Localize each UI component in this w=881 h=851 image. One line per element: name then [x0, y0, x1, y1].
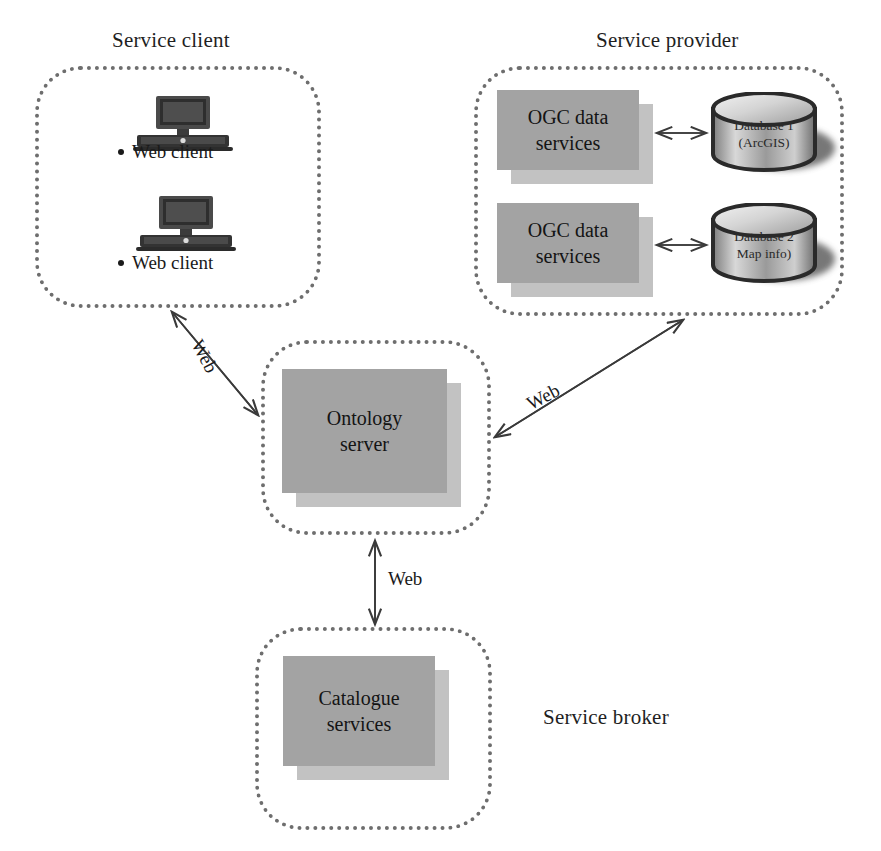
stack-front-layer: Ontology server [282, 369, 447, 493]
ontology-server-line1: Ontology [327, 405, 403, 431]
edge-label-ontology-provider: Web [523, 379, 564, 414]
service-provider-caption: Service provider [596, 28, 739, 53]
ogc-data-services-box-1: OGC data services [497, 90, 639, 170]
database-cylinder-2: Database 2 Map info) [709, 203, 859, 289]
database-cylinder-1: Database 1 (ArcGIS) [709, 92, 859, 178]
service-broker-caption: Service broker [543, 705, 669, 730]
service-client-caption: Service client [112, 28, 230, 53]
ogc-services-1-line2: services [528, 130, 609, 156]
catalogue-services-line2: services [318, 711, 399, 737]
catalogue-services-line1: Catalogue [318, 685, 399, 711]
web-client-label-1-text: Web client [132, 141, 213, 162]
diagram-canvas: Service client Web client [0, 0, 881, 851]
ogc-data-services-box-2: OGC data services [497, 203, 639, 283]
desktop-computer-icon [132, 196, 240, 256]
ontology-server-box: Ontology server [282, 369, 447, 493]
bullet-dot-icon [118, 260, 124, 266]
stack-front-layer: OGC data services [497, 203, 639, 283]
web-client-label-2: Web client [118, 252, 213, 274]
ogc-services-2-line1: OGC data [528, 217, 609, 243]
stack-front-layer: Catalogue services [283, 656, 435, 766]
catalogue-services-box: Catalogue services [283, 656, 435, 766]
ontology-server-line2: server [327, 431, 403, 457]
ogc-services-2-line2: services [528, 243, 609, 269]
edge-label-ontology-broker: Web [388, 568, 422, 590]
connector-ontology-provider [495, 320, 683, 437]
web-client-label-2-text: Web client [132, 252, 213, 273]
web-client-label-1: Web client [118, 141, 213, 163]
edge-label-client-ontology: Web [187, 336, 223, 377]
bullet-dot-icon [118, 149, 124, 155]
ogc-services-1-line1: OGC data [528, 104, 609, 130]
stack-front-layer: OGC data services [497, 90, 639, 170]
